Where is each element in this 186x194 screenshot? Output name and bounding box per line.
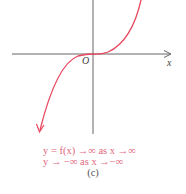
caption-line-2: y → −∞ as x →−∞ (43, 156, 123, 167)
function-curve (40, 0, 141, 130)
caption-line-1: y = f(x) →∞ as x →∞ (43, 145, 136, 156)
origin-label: O (82, 55, 89, 66)
figure-sublabel: (c) (0, 167, 186, 178)
x-axis-label: x (166, 57, 172, 68)
